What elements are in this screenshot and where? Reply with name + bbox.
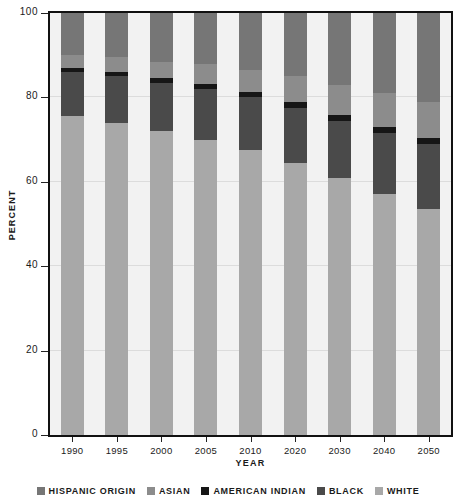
y-tick-mark xyxy=(41,266,48,267)
x-axis-title: Year xyxy=(48,458,453,468)
stacked-bar-chart: Percent 020406080100 1990199520002005201… xyxy=(0,0,456,501)
y-axis: Percent 020406080100 xyxy=(0,0,48,501)
bar-segment-black xyxy=(194,89,217,140)
legend-swatch-icon xyxy=(37,487,45,495)
bar-segment-black xyxy=(61,72,84,116)
y-tick-label: 40 xyxy=(26,259,38,270)
bar-segment-american-indian xyxy=(284,102,307,107)
legend-item-white[interactable]: White xyxy=(375,486,420,496)
y-tick-mark xyxy=(41,13,48,14)
chart-legend: Hispanic OriginAsianAmerican IndianBlack… xyxy=(0,481,456,501)
y-axis-title: Percent xyxy=(7,165,17,265)
bar-segment-hispanic-origin xyxy=(373,13,396,93)
plot-inner xyxy=(50,13,451,435)
x-tick-label-2020: 2020 xyxy=(284,445,306,456)
x-tick-label-2000: 2000 xyxy=(150,445,172,456)
x-tick-label-2005: 2005 xyxy=(195,445,217,456)
bar-segment-white xyxy=(417,209,440,435)
bar-segment-white xyxy=(194,140,217,435)
y-tick: 20 xyxy=(0,351,48,352)
bar-segment-white xyxy=(105,123,128,435)
bar-2040 xyxy=(373,13,396,435)
bar-segment-hispanic-origin xyxy=(328,13,351,85)
legend-item-black[interactable]: Black xyxy=(317,486,364,496)
y-tick: 0 xyxy=(0,435,48,436)
bar-segment-white xyxy=(239,150,262,435)
bar-2030 xyxy=(328,13,351,435)
legend-label: Asian xyxy=(159,486,191,496)
bar-2020 xyxy=(284,13,307,435)
x-tick-label-2050: 2050 xyxy=(418,445,440,456)
x-axis: 199019952000200520102020203020402050 xyxy=(48,437,453,477)
bar-segment-asian xyxy=(284,76,307,102)
y-tick-label: 80 xyxy=(26,90,38,101)
bar-segment-hispanic-origin xyxy=(194,13,217,64)
bar-segment-hispanic-origin xyxy=(417,13,440,102)
bar-segment-white xyxy=(61,116,84,435)
bar-segment-hispanic-origin xyxy=(150,13,173,62)
y-tick: 40 xyxy=(0,266,48,267)
bar-segment-white xyxy=(328,178,351,435)
bar-2005 xyxy=(194,13,217,435)
bar-segment-asian xyxy=(328,85,351,115)
bar-segment-black xyxy=(328,121,351,178)
bar-segment-black xyxy=(284,108,307,163)
bar-1995 xyxy=(105,13,128,435)
legend-swatch-icon xyxy=(375,487,383,495)
bar-segment-black xyxy=(105,76,128,122)
x-tick xyxy=(117,437,118,442)
y-tick: 80 xyxy=(0,97,48,98)
bar-segment-hispanic-origin xyxy=(284,13,307,76)
legend-item-hispanic-origin[interactable]: Hispanic Origin xyxy=(37,486,136,496)
bar-2050 xyxy=(417,13,440,435)
y-tick-mark xyxy=(41,351,48,352)
y-tick-mark xyxy=(41,97,48,98)
bar-segment-american-indian xyxy=(417,138,440,144)
x-tick-label-1995: 1995 xyxy=(106,445,128,456)
legend-item-asian[interactable]: Asian xyxy=(147,486,191,496)
bar-segment-hispanic-origin xyxy=(61,13,84,55)
x-tick xyxy=(340,437,341,442)
x-tick xyxy=(384,437,385,442)
legend-label: White xyxy=(387,486,420,496)
bar-2010 xyxy=(239,13,262,435)
bar-segment-asian xyxy=(61,55,84,68)
bar-segment-american-indian xyxy=(105,72,128,76)
legend-swatch-icon xyxy=(317,487,325,495)
bar-segment-asian xyxy=(239,70,262,92)
bar-segment-black xyxy=(417,144,440,209)
x-tick xyxy=(251,437,252,442)
x-tick-label-2030: 2030 xyxy=(328,445,350,456)
bar-segment-white xyxy=(150,131,173,435)
bar-segment-hispanic-origin xyxy=(239,13,262,70)
y-tick-mark xyxy=(41,182,48,183)
x-tick xyxy=(295,437,296,442)
x-tick xyxy=(161,437,162,442)
y-tick: 60 xyxy=(0,182,48,183)
bar-segment-asian xyxy=(417,102,440,138)
y-tick-label: 60 xyxy=(26,175,38,186)
bar-segment-black xyxy=(150,83,173,132)
bar-segment-asian xyxy=(105,57,128,72)
x-tick-label-2010: 2010 xyxy=(239,445,261,456)
bar-segment-asian xyxy=(373,93,396,127)
bar-segment-black xyxy=(239,97,262,150)
legend-label: American Indian xyxy=(213,486,306,496)
x-tick xyxy=(206,437,207,442)
legend-label: Hispanic Origin xyxy=(49,486,136,496)
bar-segment-white xyxy=(373,194,396,435)
bar-segment-asian xyxy=(194,64,217,84)
bar-segment-american-indian xyxy=(373,127,396,133)
bar-segment-hispanic-origin xyxy=(105,13,128,57)
bar-2000 xyxy=(150,13,173,435)
legend-swatch-icon xyxy=(201,487,209,495)
x-tick xyxy=(429,437,430,442)
y-tick-label: 100 xyxy=(20,6,38,17)
y-tick: 100 xyxy=(0,13,48,14)
y-tick-label: 20 xyxy=(26,344,38,355)
bar-segment-american-indian xyxy=(194,84,217,89)
y-tick-mark xyxy=(41,435,48,436)
x-tick-label-2040: 2040 xyxy=(373,445,395,456)
bar-segment-american-indian xyxy=(61,68,84,72)
legend-item-american-indian[interactable]: American Indian xyxy=(201,486,306,496)
